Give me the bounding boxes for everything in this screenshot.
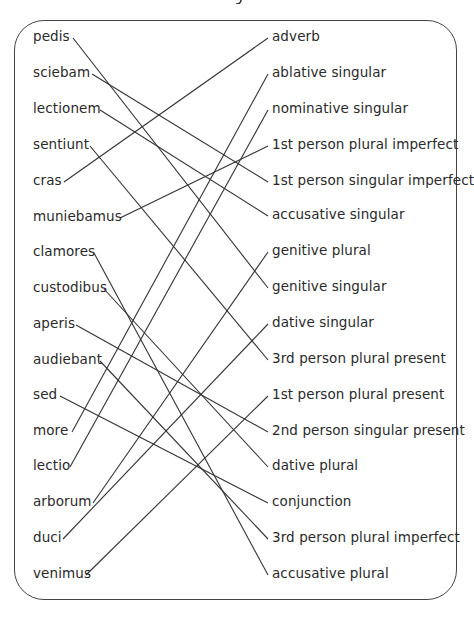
grammar-label: 1st person plural imperfect — [272, 136, 458, 152]
grammar-label: adverb — [272, 28, 320, 44]
latin-word: cras — [33, 172, 62, 188]
latin-word: arborum — [33, 493, 92, 509]
connection-line — [94, 253, 268, 575]
latin-word: custodibus — [33, 279, 107, 295]
connection-line — [60, 396, 268, 503]
latin-word: lectio — [33, 457, 70, 473]
grammar-label: accusative plural — [272, 565, 389, 581]
grammar-label: genitive singular — [272, 278, 387, 294]
latin-word: venimus — [33, 565, 91, 581]
connection-line — [104, 289, 268, 467]
connection-line — [76, 325, 268, 432]
connection-line — [72, 74, 268, 432]
latin-word: pedis — [33, 28, 70, 44]
latin-word: sentiunt — [33, 136, 89, 152]
latin-word: aperis — [33, 315, 75, 331]
latin-word: muniebamus — [33, 208, 122, 224]
latin-word: audiebant — [33, 351, 102, 367]
connection-line — [120, 146, 268, 218]
latin-word: more — [33, 422, 68, 438]
latin-word: clamores — [33, 243, 95, 259]
grammar-label: 1st person singular imperfect — [272, 172, 474, 188]
connection-line — [100, 110, 268, 216]
latin-word: duci — [33, 529, 62, 545]
grammar-label: 3rd person plural present — [272, 350, 446, 366]
grammar-label: 1st person plural present — [272, 386, 444, 402]
grammar-label: dative plural — [272, 457, 358, 473]
latin-word: sciebam — [33, 64, 90, 80]
grammar-label: 3rd person plural imperfect — [272, 529, 460, 545]
grammar-label: genitive plural — [272, 242, 371, 258]
grammar-label: accusative singular — [272, 206, 405, 222]
grammar-label: ablative singular — [272, 64, 386, 80]
latin-word: lectionem — [33, 100, 101, 116]
connection-line — [92, 74, 268, 182]
latin-word: sed — [33, 386, 57, 402]
connection-line — [100, 361, 268, 539]
grammar-label: nominative singular — [272, 100, 408, 116]
grammar-label: dative singular — [272, 314, 374, 330]
grammar-label: conjunction — [272, 493, 351, 509]
grammar-label: 2nd person singular present — [272, 422, 465, 438]
